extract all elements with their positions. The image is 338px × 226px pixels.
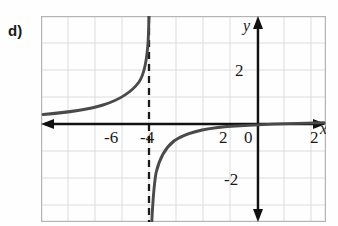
plot-background bbox=[41, 16, 326, 222]
coordinate-graph: -6 -4 2 0 2 2 -2 y x bbox=[41, 16, 326, 222]
y-tick-label-neg2: -2 bbox=[224, 170, 238, 189]
x-axis-name: x bbox=[319, 120, 326, 137]
x-tick-label-pos2: 2 bbox=[310, 128, 319, 147]
problem-label: d) bbox=[8, 22, 23, 39]
x-tick-label-neg6: -6 bbox=[104, 128, 118, 147]
y-axis-name: y bbox=[241, 17, 251, 35]
figure-container: d) bbox=[0, 0, 338, 226]
x-tick-label-pos2-left: 2 bbox=[219, 128, 228, 147]
x-tick-label-neg4: -4 bbox=[140, 128, 155, 147]
graph-plot-area: -6 -4 2 0 2 2 -2 y x bbox=[41, 16, 326, 222]
origin-label: 0 bbox=[244, 128, 253, 147]
y-tick-label-pos2: 2 bbox=[235, 61, 244, 80]
